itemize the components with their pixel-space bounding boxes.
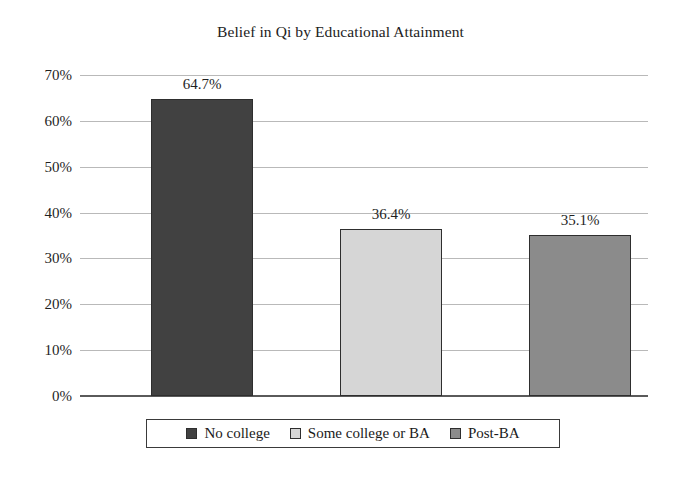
legend-item-some-college-or-ba[interactable]: Some college or BA xyxy=(290,426,430,441)
bars-layer: 64.7%36.4%35.1% xyxy=(80,75,648,396)
legend-item-label: Post-BA xyxy=(468,426,520,441)
legend-swatch-icon xyxy=(450,428,461,439)
legend-item-label: Some college or BA xyxy=(308,426,430,441)
y-axis-tick-label: 40% xyxy=(10,204,72,221)
bar-value-label: 64.7% xyxy=(151,76,253,93)
chart-title: Belief in Qi by Educational Attainment xyxy=(0,23,681,41)
bar-value-label: 36.4% xyxy=(340,206,442,223)
legend-item-label: No college xyxy=(204,426,269,441)
y-axis-tick-label: 20% xyxy=(10,296,72,313)
y-axis-tick-label: 30% xyxy=(10,250,72,267)
legend-item-no-college[interactable]: No college xyxy=(186,426,269,441)
bar-some-college-or-ba[interactable] xyxy=(340,229,442,396)
bar-post-ba[interactable] xyxy=(529,235,631,396)
chart-legend: No collegeSome college or BAPost-BA xyxy=(146,419,560,448)
chart-container: Belief in Qi by Educational Attainment 7… xyxy=(0,0,681,479)
y-axis-tick-label: 60% xyxy=(10,112,72,129)
legend-swatch-icon xyxy=(186,428,197,439)
bar-value-label: 35.1% xyxy=(529,212,631,229)
bar-no-college[interactable] xyxy=(151,99,253,396)
y-axis-tick-label: 50% xyxy=(10,158,72,175)
y-axis-tick-label: 0% xyxy=(10,388,72,405)
y-axis: 70%60%50%40%30%20%10%0% xyxy=(0,75,72,396)
legend-item-post-ba[interactable]: Post-BA xyxy=(450,426,520,441)
legend-swatch-icon xyxy=(290,428,301,439)
y-axis-tick-label: 10% xyxy=(10,342,72,359)
y-axis-tick-label: 70% xyxy=(10,67,72,84)
